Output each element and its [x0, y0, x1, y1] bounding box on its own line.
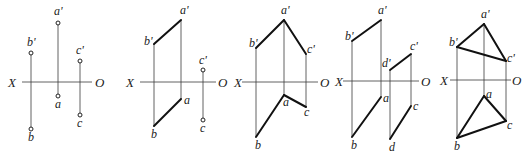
point-label: c' — [199, 53, 207, 67]
point-label: c — [413, 99, 419, 113]
point-label: b — [255, 138, 261, 152]
point-label: c — [304, 105, 310, 119]
point-label: b — [28, 130, 34, 144]
point-label: b' — [27, 35, 36, 49]
point-marker-icon — [78, 59, 82, 63]
axis-label-x: X — [334, 74, 344, 89]
panel-4: XOa'b'c'd'abcd — [334, 3, 431, 154]
edge-line — [457, 121, 506, 138]
point-label: c — [200, 121, 206, 135]
point-label: a — [55, 97, 61, 111]
axis-label-o: O — [218, 75, 228, 90]
edge-line — [457, 24, 484, 47]
point-label: c' — [507, 51, 515, 65]
point-label: b' — [144, 34, 153, 48]
axis-label-x: X — [125, 75, 135, 90]
point-label: a' — [180, 3, 189, 17]
axis-label-x: X — [7, 75, 17, 90]
point-label: c' — [307, 42, 315, 56]
edge-line — [256, 20, 284, 48]
point-label: a' — [54, 4, 63, 18]
point-marker-icon — [56, 21, 60, 25]
axis-label-o: O — [320, 75, 330, 90]
point-label: b — [351, 138, 357, 152]
point-label: c — [507, 118, 513, 132]
edge-line — [390, 106, 411, 139]
edge-line — [256, 95, 284, 137]
panel-1: XOa'b'c'abc — [7, 4, 105, 144]
point-marker-icon — [29, 51, 33, 55]
point-label: a' — [378, 3, 387, 17]
axis-label-o: O — [512, 73, 522, 88]
projection-diagram: XOa'b'c'abcXOa'b'c'abcXOa'b'c'abcXOa'b'c… — [0, 0, 527, 158]
panel-3: XOa'b'c'abc — [233, 3, 330, 152]
point-label: d — [389, 140, 396, 154]
point-label: b' — [449, 35, 458, 49]
point-label: c — [77, 116, 83, 130]
edge-line — [457, 96, 484, 138]
axis-label-o: O — [95, 75, 105, 90]
edge-line — [154, 20, 181, 44]
point-marker-icon — [201, 68, 205, 72]
point-label: a' — [481, 7, 490, 21]
panel-5: XOa'b'c'abc — [439, 7, 522, 153]
point-label: a — [184, 93, 190, 107]
point-label: c' — [76, 43, 84, 57]
edge-line — [352, 97, 381, 137]
edge-line — [154, 99, 181, 126]
point-label: a' — [281, 3, 290, 17]
point-label: a — [383, 91, 389, 105]
edge-line — [284, 20, 306, 54]
axis-label-x: X — [233, 75, 243, 90]
edge-line — [390, 54, 411, 70]
point-label: b — [151, 127, 157, 141]
point-label: b' — [345, 29, 354, 43]
point-label: b — [454, 139, 460, 153]
axis-label-o: O — [421, 74, 431, 89]
edge-line — [352, 20, 381, 41]
point-label: b' — [249, 36, 258, 50]
point-label: a — [486, 87, 492, 101]
axis-label-x: X — [439, 73, 449, 88]
point-label: a — [283, 95, 289, 109]
point-label: c' — [410, 39, 418, 53]
point-label: d' — [382, 56, 391, 70]
panel-2: XOa'b'c'abc — [125, 3, 228, 141]
